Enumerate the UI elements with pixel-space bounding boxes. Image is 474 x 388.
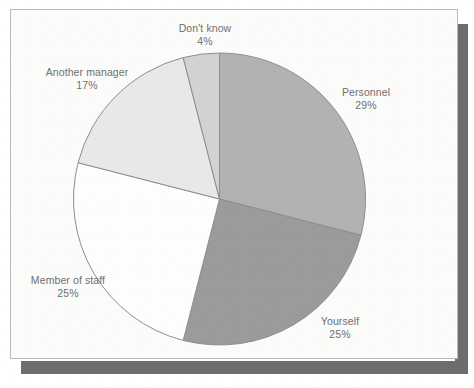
pie-label-another-manager: Another manager 17% [27, 66, 147, 92]
pie-label-another-manager-value: 17% [27, 79, 147, 92]
pie-label-personnel-value: 29% [316, 99, 416, 112]
pie-label-member-of-staff-value: 25% [8, 287, 128, 300]
pie-label-yourself-value: 25% [290, 328, 390, 341]
pie-label-dont-know-name: Don't know [150, 22, 260, 35]
pie-label-another-manager-name: Another manager [27, 66, 147, 79]
pie-label-dont-know: Don't know 4% [150, 22, 260, 48]
pie-label-dont-know-value: 4% [150, 35, 260, 48]
pie-label-member-of-staff: Member of staff 25% [8, 274, 128, 300]
pie-label-personnel-name: Personnel [316, 86, 416, 99]
pie-label-yourself-name: Yourself [290, 315, 390, 328]
pie-label-personnel: Personnel 29% [316, 86, 416, 112]
pie-label-yourself: Yourself 25% [290, 315, 390, 341]
scanned-page: Don't know 4% Another manager 17% Person… [0, 0, 474, 388]
pie-label-member-of-staff-name: Member of staff [8, 274, 128, 287]
pie-chart [0, 0, 474, 388]
